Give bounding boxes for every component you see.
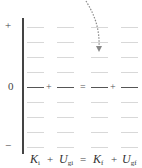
grid-line: [57, 117, 74, 118]
zero-plus-1: +: [46, 82, 52, 92]
grid-line: [121, 57, 138, 58]
grid-line: [57, 57, 74, 58]
grid-line: [57, 42, 74, 43]
grid-line: [91, 117, 108, 118]
zero-line-segment: [91, 87, 108, 88]
grid-line: [91, 57, 108, 58]
label-ug-initial: Ugi: [59, 152, 73, 167]
grid-line: [121, 147, 138, 148]
grid-line: [27, 147, 44, 148]
equals-sign: =: [80, 153, 86, 165]
plus-label: +: [5, 20, 11, 31]
grid-line: [121, 72, 138, 73]
grid-line: [57, 72, 74, 73]
zero-equals: =: [80, 82, 86, 92]
zero-label: 0: [8, 81, 14, 92]
grid-line: [121, 27, 138, 28]
grid-line: [27, 57, 44, 58]
plus-sign-2: +: [111, 153, 117, 165]
grid-line: [91, 102, 108, 103]
plus-sign-1: +: [47, 153, 53, 165]
zero-line-segment: [121, 87, 138, 88]
grid-line: [121, 117, 138, 118]
grid-line: [57, 147, 74, 148]
minus-label: −: [5, 140, 11, 151]
grid-line: [57, 132, 74, 133]
zero-line-segment: [57, 87, 74, 88]
grid-line: [91, 132, 108, 133]
vertical-axis: [22, 18, 24, 154]
grid-line: [91, 27, 108, 28]
grid-line: [27, 132, 44, 133]
grid-line: [121, 102, 138, 103]
grid-line: [91, 147, 108, 148]
grid-line: [57, 27, 74, 28]
grid-line: [27, 117, 44, 118]
grid-line: [27, 102, 44, 103]
grid-line: [91, 42, 108, 43]
label-ug-final: Ugf: [122, 152, 137, 167]
grid-line: [121, 132, 138, 133]
grid-line: [27, 27, 44, 28]
grid-line: [57, 102, 74, 103]
zero-line-segment: [27, 87, 44, 88]
label-k-initial: Ki: [30, 152, 40, 167]
label-k-final: Kf: [93, 152, 103, 167]
grid-line: [27, 72, 44, 73]
grid-line: [121, 42, 138, 43]
grid-line: [91, 72, 108, 73]
zero-plus-2: +: [110, 82, 116, 92]
grid-line: [27, 42, 44, 43]
